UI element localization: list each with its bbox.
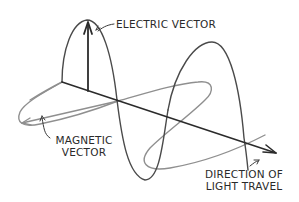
- electric-hump-1: [62, 20, 117, 100]
- direction-label-line2: LIGHT TRAVEL: [194, 180, 294, 192]
- magnetic-vector-label-line2: VECTOR: [48, 146, 120, 158]
- direction-label-line1: DIRECTION OF: [194, 168, 294, 180]
- em-wave-diagram: ELECTRIC VECTOR MAGNETIC VECTOR DIRECTIO…: [0, 0, 299, 202]
- magnetic-vector-label: MAGNETIC VECTOR: [48, 134, 120, 158]
- magnetic-vector-line: [22, 101, 118, 123]
- electric-vector-arrow: [84, 22, 92, 91]
- electric-trough: [117, 100, 168, 180]
- magnetic-lobe-left: [19, 82, 118, 125]
- magnetic-start: [30, 82, 62, 100]
- direction-label: DIRECTION OF LIGHT TRAVEL: [194, 168, 294, 192]
- electric-vector-label: ELECTRIC VECTOR: [116, 18, 216, 30]
- electric-hump-2: [168, 42, 248, 170]
- magnetic-vector-label-line1: MAGNETIC: [48, 134, 120, 146]
